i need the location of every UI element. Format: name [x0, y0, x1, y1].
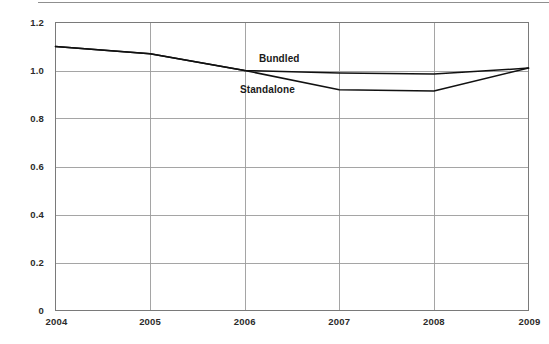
y-axis-tick-label: 0.2: [30, 257, 44, 268]
series-annotation-standalone: Standalone: [240, 84, 295, 95]
x-axis-tick-label: 2004: [46, 316, 68, 327]
y-axis-tick-label: 1.0: [30, 65, 44, 76]
series-annotation-bundled: Bundled: [259, 53, 300, 64]
chart-background: [0, 0, 549, 344]
y-axis-tick-label: 1.2: [30, 17, 44, 28]
chart-page: 1.21.00.80.60.40.20 20042005200620072008…: [0, 0, 549, 344]
x-axis-tick-label: 2007: [328, 316, 350, 327]
x-axis-tick-label: 2008: [423, 316, 445, 327]
y-axis-tick-label: 0: [39, 305, 44, 316]
y-axis-tick-label: 0.8: [30, 113, 44, 124]
x-axis-tick-label: 2009: [519, 316, 541, 327]
y-axis-tick-label: 0.4: [30, 209, 44, 220]
x-axis-tick-label: 2006: [234, 316, 256, 327]
line-chart: 1.21.00.80.60.40.20 20042005200620072008…: [0, 0, 549, 344]
x-axis-tick-label: 2005: [139, 316, 161, 327]
y-axis-tick-label: 0.6: [30, 161, 44, 172]
